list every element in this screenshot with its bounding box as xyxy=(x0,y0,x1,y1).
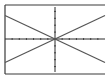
graph-screen xyxy=(0,0,106,79)
